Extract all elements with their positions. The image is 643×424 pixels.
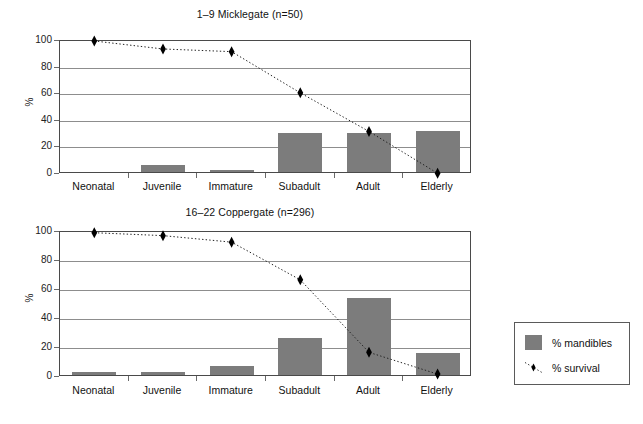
legend-item-mandibles: % mandibles [525, 335, 612, 350]
y-tick-label: 40 [22, 115, 52, 125]
plot-area-coppergate [59, 231, 471, 376]
bar-juvenile [141, 165, 185, 172]
x-tick-label-neonatal: Neonatal [59, 181, 128, 192]
y-tick-label: 0 [22, 168, 52, 178]
x-tickmark [402, 376, 403, 381]
x-tickmark [196, 173, 197, 178]
x-tick-label-elderly: Elderly [402, 181, 471, 192]
y-tick-label: 40 [22, 313, 52, 323]
x-tick-label-immature: Immature [196, 181, 265, 192]
y-tick-label: 60 [22, 88, 52, 98]
gridline [60, 290, 470, 291]
y-tick-label: 60 [22, 284, 52, 294]
x-tick-label-subadult: Subadult [265, 385, 334, 396]
x-tickmark [402, 173, 403, 178]
y-tick-label: 20 [22, 141, 52, 151]
y-tickmark [54, 173, 59, 174]
bar-neonatal [72, 372, 116, 375]
bar-subadult [278, 338, 322, 375]
bar-immature [210, 170, 254, 172]
x-tick-label-adult: Adult [334, 181, 403, 192]
chart-title-micklegate: 1–9 Micklegate (n=50) [0, 8, 500, 20]
plot-area-micklegate [59, 40, 471, 173]
x-tick-label-juvenile: Juvenile [128, 181, 197, 192]
y-tick-label: 20 [22, 342, 52, 352]
bar-adult [347, 298, 391, 375]
bar-juvenile [141, 372, 185, 375]
x-tick-label-neonatal: Neonatal [59, 385, 128, 396]
x-tick-label-elderly: Elderly [402, 385, 471, 396]
x-tickmark [334, 376, 335, 381]
gridline [60, 348, 470, 349]
chart-title-coppergate: 16–22 Coppergate (n=296) [0, 206, 500, 218]
gridline [60, 147, 470, 148]
legend-label-mandibles: % mandibles [552, 337, 612, 349]
x-tickmark [334, 173, 335, 178]
chart-panel-micklegate: 1–9 Micklegate (n=50) % 100 80 60 40 20 … [0, 0, 500, 196]
y-tick-label: 100 [22, 226, 52, 236]
gridline [60, 319, 470, 320]
x-tickmark [265, 376, 266, 381]
y-tickmark [54, 376, 59, 377]
x-tick-label-subadult: Subadult [265, 181, 334, 192]
legend: % mandibles % survival [514, 322, 630, 385]
legend-item-survival: % survival [525, 360, 600, 375]
y-tick-label: 0 [22, 371, 52, 381]
bar-adult [347, 133, 391, 172]
bar-immature [210, 366, 254, 375]
chart-panel-coppergate: 16–22 Coppergate (n=296) % 100 80 60 40 … [0, 202, 500, 412]
gridline [60, 94, 470, 95]
x-tick-label-juvenile: Juvenile [128, 385, 197, 396]
y-tick-label: 80 [22, 255, 52, 265]
x-tick-label-adult: Adult [334, 385, 403, 396]
x-tickmark [196, 376, 197, 381]
bar-subadult [278, 133, 322, 172]
gridline [60, 121, 470, 122]
survival-line-micklegate [60, 41, 472, 174]
legend-swatch-icon [525, 335, 542, 350]
bar-elderly [416, 353, 460, 376]
gridline [60, 68, 470, 69]
x-tickmark [128, 376, 129, 381]
survival-line-coppergate [60, 232, 472, 377]
x-tick-label-immature: Immature [196, 385, 265, 396]
gridline [60, 261, 470, 262]
bar-elderly [416, 131, 460, 172]
legend-label-survival: % survival [552, 362, 600, 374]
x-tickmark [128, 173, 129, 178]
x-tickmark [265, 173, 266, 178]
y-tick-label: 100 [22, 35, 52, 45]
y-tick-label: 80 [22, 62, 52, 72]
legend-diamond-line-icon [525, 360, 542, 375]
